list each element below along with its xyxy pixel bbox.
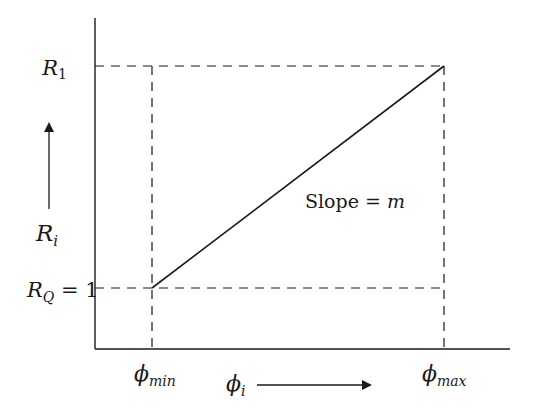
y-axis-label: Ri [35, 220, 58, 250]
rq-label: RQ = 1 [26, 278, 99, 305]
phi-max-label: ϕmax [422, 361, 467, 389]
phi-min-label: ϕmin [134, 361, 176, 389]
r1-label: R1 [41, 56, 67, 82]
slope-line [152, 66, 444, 288]
slope-annotation: Slope = m [305, 190, 405, 212]
diagram-svg: R1 RQ = 1 Ri ϕmin ϕmax ϕi Slope = m [0, 0, 537, 410]
x-axis-label: ϕi [226, 371, 245, 399]
diagram-canvas: R1 RQ = 1 Ri ϕmin ϕmax ϕi Slope = m [0, 0, 537, 410]
